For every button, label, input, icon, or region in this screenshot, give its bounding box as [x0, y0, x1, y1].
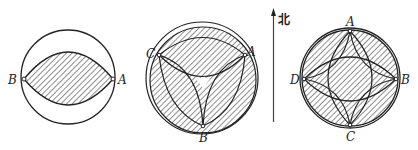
figure-3-point-b	[394, 77, 398, 81]
figure-3-label-d: D	[289, 73, 300, 87]
figure-3-point-a	[348, 29, 352, 33]
north-arrow: 北	[271, 8, 290, 122]
figure-1-label-a: A	[117, 73, 127, 87]
figure-1-point-b	[22, 77, 26, 81]
figure-1-point-a	[111, 77, 115, 81]
figure-3-point-d	[302, 77, 306, 81]
figure-2-label-a: A	[246, 45, 256, 59]
figure-1-shaded-lens	[24, 52, 113, 105]
figure-1-label-b: B	[7, 73, 17, 87]
figure-3-label-b: B	[400, 73, 410, 87]
figure-2-point-b	[201, 124, 205, 128]
figure-3-label-c: C	[346, 130, 355, 144]
north-label: 北	[278, 12, 290, 27]
figure-2: C A B	[146, 22, 258, 145]
figure-1: B A	[7, 30, 127, 124]
figure-2-label-b: B	[198, 131, 208, 145]
arrow-head-icon	[271, 8, 276, 16]
diagram-canvas: B A C A B 北	[0, 0, 418, 150]
figure-2-point-c	[157, 53, 161, 57]
figure-3: A B C D	[289, 15, 410, 144]
figure-2-label-c: C	[146, 47, 155, 61]
figure-3-label-a: A	[345, 15, 355, 29]
figure-3-point-c	[348, 123, 352, 127]
